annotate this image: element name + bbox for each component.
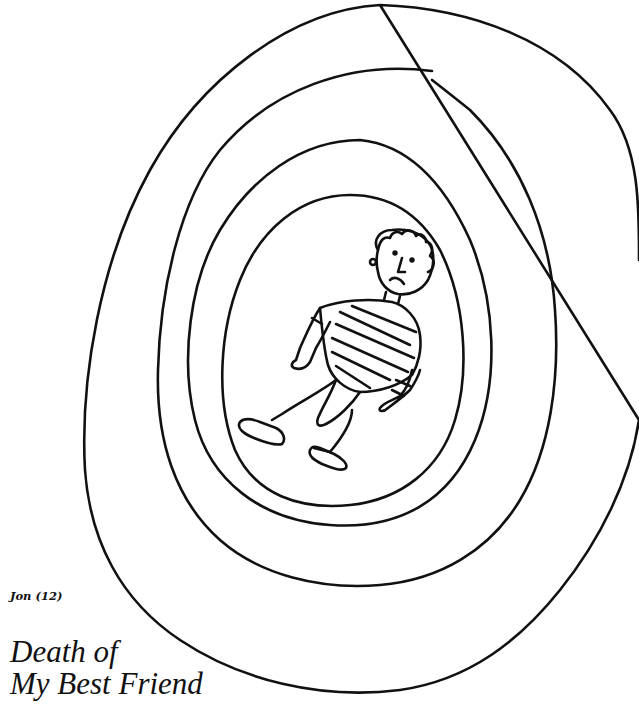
- frown-mouth: [390, 278, 404, 284]
- title-line-2: My Best Friend: [10, 668, 203, 700]
- artwork-title: Death of My Best Friend: [10, 636, 203, 700]
- nose: [398, 258, 405, 272]
- hair: [378, 230, 434, 272]
- middle-ring: [158, 69, 556, 586]
- ear: [370, 259, 376, 265]
- eye-left: [394, 252, 397, 255]
- boy-figure: [239, 230, 434, 470]
- shirt-stripes: [332, 306, 416, 388]
- right-arm: [380, 370, 420, 411]
- drawing-artwork: [0, 0, 639, 712]
- right-shoe: [310, 447, 347, 470]
- eye-right: [411, 259, 414, 262]
- author-credit: Jon (12): [10, 589, 62, 603]
- title-line-1: Death of: [10, 636, 203, 668]
- left-shoe: [239, 419, 284, 445]
- inner-ring: [188, 140, 491, 526]
